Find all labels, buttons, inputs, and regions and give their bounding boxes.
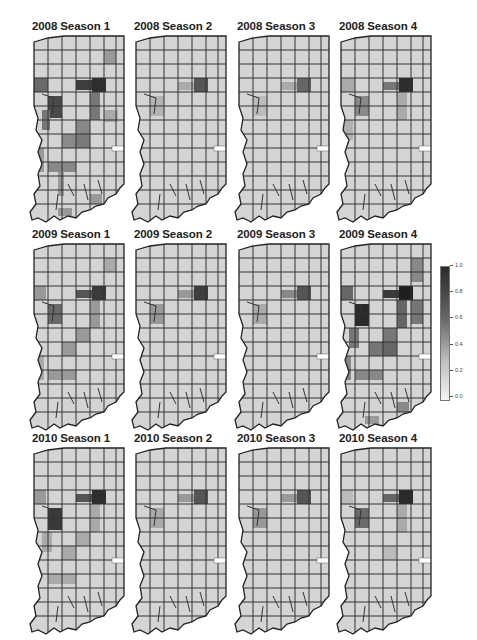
panel-title: 2008 Season 2 [134,20,240,32]
panel-title: 2009 Season 2 [134,228,240,240]
indiana-choropleth-map [28,446,128,636]
indiana-choropleth-map [130,242,230,432]
map-panel: 2010 Season 1 [28,432,138,636]
indiana-choropleth-map [233,446,333,636]
panel-title: 2010 Season 2 [134,432,240,444]
panel-title: 2008 Season 4 [339,20,445,32]
map-panel: 2008 Season 1 [28,20,138,224]
panel-title: 2009 Season 4 [339,228,445,240]
legend-tick-0: 0.0 [450,393,463,399]
indiana-choropleth-map [335,34,435,224]
map-panel: 2009 Season 2 [130,228,240,432]
legend-tick-0.8: 0.8 [450,288,463,294]
panel-title: 2010 Season 4 [339,432,445,444]
indiana-choropleth-map [28,34,128,224]
indiana-choropleth-map [233,242,333,432]
map-panel: 2010 Season 2 [130,432,240,636]
legend-tick-1: 1.0 [450,262,463,268]
indiana-choropleth-map [28,242,128,432]
indiana-choropleth-map [233,34,333,224]
map-panel: 2008 Season 3 [233,20,343,224]
map-panel: 2010 Season 3 [233,432,343,636]
colorbar-gradient [440,266,450,401]
indiana-choropleth-map [335,242,435,432]
panel-title: 2009 Season 1 [32,228,138,240]
panel-title: 2010 Season 3 [237,432,343,444]
legend-tick-0.4: 0.4 [450,341,463,347]
map-panel: 2009 Season 3 [233,228,343,432]
map-panel: 2008 Season 2 [130,20,240,224]
map-panel: 2010 Season 4 [335,432,445,636]
panel-title: 2008 Season 1 [32,20,138,32]
panel-title: 2008 Season 3 [237,20,343,32]
legend-tick-0.2: 0.2 [450,367,463,373]
panel-title: 2010 Season 1 [32,432,138,444]
map-panel: 2009 Season 4 [335,228,445,432]
indiana-choropleth-map [130,34,230,224]
panel-title: 2009 Season 3 [237,228,343,240]
legend-tick-0.6: 0.6 [450,314,463,320]
map-panel: 2009 Season 1 [28,228,138,432]
map-panel: 2008 Season 4 [335,20,445,224]
indiana-choropleth-map [130,446,230,636]
indiana-choropleth-map [335,446,435,636]
